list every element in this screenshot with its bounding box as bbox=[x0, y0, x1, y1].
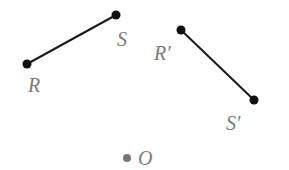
point-S bbox=[112, 11, 121, 20]
diagram-canvas: R S R′ S′ O bbox=[0, 0, 289, 170]
label-S: S bbox=[117, 28, 127, 50]
diagram-svg: R S R′ S′ O bbox=[0, 0, 289, 170]
point-O bbox=[123, 154, 131, 162]
segment-RprimeSprime bbox=[181, 30, 254, 100]
point-R bbox=[23, 60, 32, 69]
label-S-prime: S′ bbox=[226, 112, 241, 134]
label-O: O bbox=[138, 147, 152, 169]
label-R: R bbox=[27, 74, 40, 96]
label-R-prime: R′ bbox=[153, 42, 171, 64]
segment-RS bbox=[27, 15, 116, 64]
point-R-prime bbox=[177, 26, 186, 35]
point-S-prime bbox=[250, 96, 259, 105]
